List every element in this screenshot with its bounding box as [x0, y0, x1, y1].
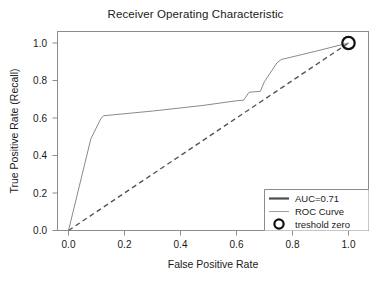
x-tick-label: 0.4: [174, 239, 188, 250]
y-tick-label: 0.0: [33, 225, 47, 236]
y-axis-title: True Positive Rate (Recall): [8, 68, 20, 193]
y-tick-label: 0.8: [33, 75, 47, 86]
y-axis-ticks: [53, 43, 58, 231]
x-tick-label: 0.6: [230, 239, 244, 250]
x-axis-ticks: [69, 231, 349, 236]
x-axis-title: False Positive Rate: [168, 258, 259, 270]
legend-label-roc-curve: ROC Curve: [295, 206, 344, 217]
y-tick-labels: 0.0 0.2 0.4 0.6 0.8 1.0: [33, 38, 47, 237]
legend-label-auc: AUC=0.71: [295, 193, 339, 204]
y-tick-label: 1.0: [33, 38, 47, 49]
y-tick-label: 0.4: [33, 150, 47, 161]
y-tick-label: 0.6: [33, 113, 47, 124]
x-tick-label: 0.0: [62, 239, 76, 250]
x-tick-labels: 0.0 0.2 0.4 0.6 0.8 1.0: [62, 239, 356, 250]
roc-plot-area: 0.0 0.2 0.4 0.6 0.8 1.0 0.0 0.2 0.4 0.6 …: [0, 0, 391, 288]
legend-label-threshold-zero: treshold zero: [295, 219, 350, 230]
y-tick-label: 0.2: [33, 188, 47, 199]
legend: AUC=0.71 ROC Curve treshold zero: [265, 190, 369, 231]
x-tick-label: 0.8: [286, 239, 300, 250]
x-tick-label: 0.2: [118, 239, 132, 250]
x-tick-label: 1.0: [342, 239, 356, 250]
roc-chart-figure: Receiver Operating Characteristic 0.0 0.…: [0, 0, 391, 288]
